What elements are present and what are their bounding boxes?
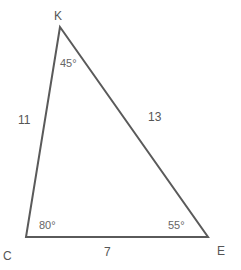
vertex-label-e: E	[217, 245, 225, 257]
triangle-diagram: K C E 11 13 7 45° 80° 55°	[0, 0, 241, 270]
side-length-ce: 7	[104, 246, 111, 258]
vertex-label-k: K	[54, 10, 62, 22]
triangle-shape	[0, 0, 241, 270]
side-length-ke: 13	[148, 111, 161, 123]
angle-label-e: 55°	[168, 220, 185, 231]
side-length-kc: 11	[18, 114, 30, 126]
angle-label-k: 45°	[60, 58, 77, 69]
angle-label-c: 80°	[39, 220, 56, 231]
vertex-label-c: C	[3, 250, 12, 262]
